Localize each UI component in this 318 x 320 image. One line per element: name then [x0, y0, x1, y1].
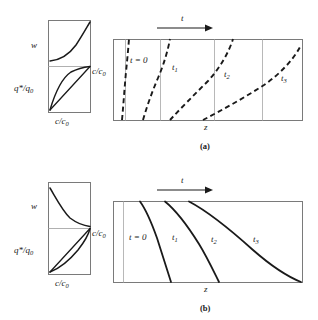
inset-b-x-label-text: c/c	[55, 278, 66, 288]
figure-root: w q*/q0 c/c0 c/c0 z t t = 0 t1 t2 t3 (a)	[0, 0, 318, 320]
time-arrow-a-label: t	[181, 14, 184, 23]
inset-b-x-label: c/c0	[55, 279, 69, 288]
plot-a-label-t2-sub: 2	[227, 73, 230, 80]
panel-a-graphics	[0, 0, 318, 160]
plot-b-label-t1-sub: 1	[175, 236, 178, 243]
plot-a-y-axis-label-sub: 0	[103, 70, 106, 77]
panel-a: w q*/q0 c/c0 c/c0 z t t = 0 t1 t2 t3 (a)	[0, 0, 318, 160]
plot-b-y-axis-label: c/c0	[92, 229, 106, 238]
main-plot-a	[114, 39, 303, 121]
plot-b-x-axis-label: z	[204, 285, 208, 294]
inset-a-w-label: w	[31, 41, 37, 50]
plot-a-label-t2: t2	[224, 70, 230, 79]
plot-a-y-axis-label-text: c/c	[92, 66, 103, 76]
plot-a-label-t3-sub: 3	[284, 77, 287, 84]
time-arrow-b	[157, 187, 213, 194]
plot-b-label-t2: t2	[211, 235, 217, 244]
inset-a-x-label-text: c/c	[55, 116, 66, 126]
plot-a-y-axis-label: c/c0	[92, 67, 106, 76]
inset-b-q-label-text: q*/q	[14, 245, 30, 255]
plot-b-label-t3: t3	[253, 235, 259, 244]
isotherm-inset-b	[49, 183, 91, 275]
plot-a-label-t1-sub: 1	[175, 66, 178, 73]
plot-a-curve-t2	[170, 39, 233, 120]
inset-b-q-label-sub: 0	[30, 249, 33, 256]
inset-b-w-label: w	[31, 202, 37, 211]
plot-b-label-t1: t1	[172, 233, 178, 242]
time-arrow-b-label: t	[181, 176, 184, 185]
inset-b-q-label: q*/q0	[14, 246, 33, 255]
plot-b-curve-t3	[189, 202, 301, 283]
inset-b-diagonal-line	[50, 229, 90, 273]
plot-b-label-t0: t = 0	[129, 233, 147, 242]
inset-a-q-label: q*/q0	[14, 84, 33, 93]
plot-b-label-t2-sub: 2	[214, 238, 217, 245]
plot-a-label-t0: t = 0	[130, 56, 148, 65]
plot-b-y-axis-label-text: c/c	[92, 228, 103, 238]
plot-b-y-axis-label-sub: 0	[103, 232, 106, 239]
panel-a-caption: (a)	[200, 141, 210, 151]
panel-b: w q*/q0 c/c0 c/c0 z t t = 0 t1 t2 t3 (b)	[0, 160, 318, 320]
inset-b-w-curve	[50, 188, 90, 227]
time-arrow-a	[157, 25, 213, 32]
main-plot-b	[114, 202, 303, 283]
time-arrow-a-head	[205, 25, 213, 32]
inset-b-x-label-sub: 0	[66, 282, 69, 289]
panel-b-graphics	[0, 160, 318, 320]
panel-b-caption: (b)	[200, 303, 210, 313]
time-arrow-b-head	[205, 187, 213, 194]
inset-a-x-label: c/c0	[55, 117, 69, 126]
plot-a-curve-t1	[143, 39, 170, 120]
inset-a-q-label-sub: 0	[30, 87, 33, 94]
inset-a-w-curve	[50, 22, 90, 61]
plot-b-label-t3-sub: 3	[256, 238, 259, 245]
plot-a-label-t1: t1	[172, 63, 178, 72]
plot-a-x-axis-label: z	[204, 123, 208, 132]
inset-a-q-label-text: q*/q	[14, 83, 30, 93]
plot-a-label-t3: t3	[281, 74, 287, 83]
isotherm-inset-a	[49, 21, 91, 113]
inset-a-x-label-sub: 0	[66, 120, 69, 127]
